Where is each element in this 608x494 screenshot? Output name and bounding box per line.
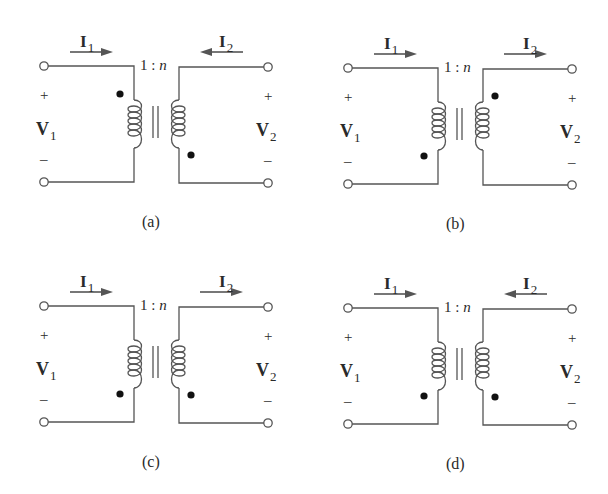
secondary-coil-icon <box>172 340 186 388</box>
current-i1-label: I1 <box>80 33 94 54</box>
terminal-secondary-bottom <box>568 421 576 429</box>
secondary-bottom-wire <box>483 150 568 185</box>
v1-minus-sign: – <box>344 394 352 409</box>
voltage-v1-label: V1 <box>340 362 361 384</box>
v2-minus-sign: – <box>568 395 576 410</box>
voltage-v1-label: V1 <box>36 360 57 382</box>
current-i2-label: I2 <box>523 275 537 296</box>
primary-top-wire <box>352 68 438 102</box>
secondary-coil-icon <box>476 342 490 390</box>
current-i2-label: I2 <box>219 33 233 54</box>
v1-minus-sign: – <box>40 152 48 167</box>
voltage-v2-label: V2 <box>560 363 581 385</box>
terminal-primary-top <box>40 62 48 70</box>
primary-coil-icon <box>128 340 142 388</box>
v2-minus-sign: – <box>568 155 576 170</box>
terminal-secondary-top <box>264 303 272 311</box>
panel-caption: (d) <box>446 456 465 472</box>
secondary-coil-icon <box>172 100 186 148</box>
voltage-v1-label: V1 <box>36 120 57 142</box>
v1-plus-sign: + <box>344 330 352 345</box>
turns-ratio-label: 1 : n <box>140 58 167 73</box>
terminal-secondary-bottom <box>568 181 576 189</box>
secondary-top-wire <box>179 67 264 100</box>
primary-coil-icon <box>128 100 142 148</box>
secondary-polarity-dot <box>187 151 194 158</box>
secondary-polarity-dot <box>491 92 498 99</box>
v2-minus-sign: – <box>264 153 272 168</box>
terminal-primary-top <box>40 302 48 310</box>
v2-minus-sign: – <box>264 393 272 408</box>
v1-plus-sign: + <box>344 90 352 105</box>
terminal-secondary-bottom <box>264 419 272 427</box>
transformer-circuit-a: I1 I2 1 : n + V1 – + V2 – (a) <box>0 0 300 245</box>
secondary-polarity-dot <box>187 391 194 398</box>
current-i2-label: I2 <box>219 273 233 294</box>
secondary-top-wire <box>483 309 568 342</box>
current-i2-label: I2 <box>523 35 537 56</box>
primary-coil-icon <box>432 102 446 150</box>
voltage-v2-label: V2 <box>560 123 581 145</box>
current-i1-label: I1 <box>80 273 94 294</box>
transformer-circuit-b: I1 I2 1 : n + V1 – + V2 – (b) <box>304 2 604 247</box>
voltage-v2-label: V2 <box>256 361 277 383</box>
v2-plus-sign: + <box>264 329 272 344</box>
v1-minus-sign: – <box>40 392 48 407</box>
voltage-v1-label: V1 <box>340 122 361 144</box>
terminal-secondary-top <box>568 65 576 73</box>
terminal-secondary-bottom <box>264 179 272 187</box>
terminal-primary-bottom <box>344 180 352 188</box>
terminal-primary-bottom <box>344 420 352 428</box>
secondary-coil-icon <box>476 102 490 150</box>
panel-caption: (a) <box>142 214 160 230</box>
terminal-primary-bottom <box>40 178 48 186</box>
current-i1-label: I1 <box>384 35 398 56</box>
primary-top-wire <box>48 306 134 340</box>
panel-caption: (c) <box>142 454 160 470</box>
panel-caption: (b) <box>446 216 465 232</box>
primary-top-wire <box>352 308 438 342</box>
secondary-top-wire <box>179 307 264 340</box>
primary-polarity-dot <box>116 90 123 97</box>
v1-plus-sign: + <box>40 328 48 343</box>
transformer-circuit-c: I1 I2 1 : n + V1 – + V2 – (c) <box>0 240 300 485</box>
primary-polarity-dot <box>420 392 427 399</box>
secondary-polarity-dot <box>491 393 498 400</box>
v2-plus-sign: + <box>264 89 272 104</box>
terminal-primary-bottom <box>40 418 48 426</box>
terminal-primary-top <box>344 304 352 312</box>
v2-plus-sign: + <box>568 331 576 346</box>
turns-ratio-label: 1 : n <box>140 298 167 313</box>
primary-bottom-wire <box>48 148 134 182</box>
terminal-secondary-top <box>264 63 272 71</box>
v2-plus-sign: + <box>568 91 576 106</box>
current-i1-label: I1 <box>384 275 398 296</box>
voltage-v2-label: V2 <box>256 121 277 143</box>
terminal-secondary-top <box>568 305 576 313</box>
primary-coil-icon <box>432 342 446 390</box>
v1-minus-sign: – <box>344 154 352 169</box>
v1-plus-sign: + <box>40 88 48 103</box>
turns-ratio-label: 1 : n <box>444 300 471 315</box>
turns-ratio-label: 1 : n <box>444 60 471 75</box>
primary-polarity-dot <box>420 152 427 159</box>
transformer-circuit-d: I1 I2 1 : n + V1 – + V2 – (d) <box>304 242 604 487</box>
primary-polarity-dot <box>116 390 123 397</box>
terminal-primary-top <box>344 64 352 72</box>
